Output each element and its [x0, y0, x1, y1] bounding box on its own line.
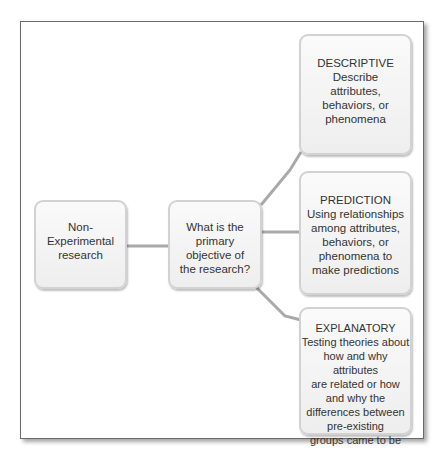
prediction-line: make predictions: [312, 263, 399, 277]
explanatory-line: groups came to be: [310, 433, 401, 447]
prediction-line: phenomena to: [319, 249, 393, 263]
question-line: the research?: [180, 262, 250, 276]
prediction-line: among attributes,: [311, 221, 400, 235]
explanatory-line: pre-existing: [327, 419, 384, 433]
descriptive-line: attributes,: [330, 84, 381, 98]
question-node: What is the primary objective of the res…: [168, 200, 262, 289]
prediction-line: behaviors, or: [322, 235, 388, 249]
connector-question-explanatory: [255, 286, 301, 320]
explanatory-line: Testing theories about: [302, 335, 410, 349]
root-line: Experimental: [47, 234, 114, 248]
root-line: research: [58, 248, 103, 262]
question-line: What is the: [186, 220, 244, 234]
explanatory-line: differences between: [306, 405, 404, 419]
root-line: Non-: [68, 220, 93, 234]
question-line: primary: [196, 234, 234, 248]
descriptive-title: DESCRIPTIVE: [317, 56, 394, 70]
explanatory-line: how and why attributes: [301, 349, 410, 377]
explanatory-line: are related or how: [311, 377, 400, 391]
connector-question-descriptive: [261, 152, 301, 205]
prediction-title: PREDICTION: [320, 193, 391, 207]
explanatory-line: and why the: [326, 391, 385, 405]
explanatory-node: EXPLANATORY Testing theories about how a…: [299, 307, 412, 435]
root-node: Non- Experimental research: [34, 200, 127, 289]
prediction-node: PREDICTION Using relationships among att…: [299, 171, 412, 295]
descriptive-line: phenomena: [325, 112, 386, 126]
descriptive-node: DESCRIPTIVE Describe attributes, behavio…: [299, 34, 412, 155]
explanatory-title: EXPLANATORY: [315, 321, 395, 335]
descriptive-line: behaviors, or: [322, 98, 388, 112]
question-line: objective of: [186, 248, 244, 262]
prediction-line: Using relationships: [307, 207, 404, 221]
descriptive-line: Describe: [333, 70, 378, 84]
